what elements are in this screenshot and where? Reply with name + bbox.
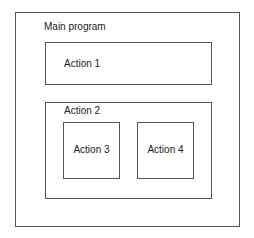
action-2-label: Action 2 — [64, 105, 100, 116]
main-program-label: Main program — [44, 21, 106, 32]
action-3-label: Action 3 — [64, 144, 119, 155]
action-1-box: Action 1 — [45, 42, 212, 85]
main-program-box: Main program Action 1 Action 2 Action 3 … — [15, 12, 240, 227]
action-1-label: Action 1 — [64, 58, 100, 69]
action-2-box: Action 2 Action 3 Action 4 — [45, 102, 212, 199]
action-3-box: Action 3 — [63, 122, 120, 179]
action-4-box: Action 4 — [137, 122, 194, 179]
action-4-label: Action 4 — [138, 144, 193, 155]
